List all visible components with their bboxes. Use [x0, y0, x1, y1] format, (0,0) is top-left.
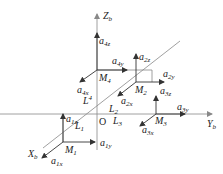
x-axis-label: Xb: [27, 148, 38, 161]
vector-a4z-label: a4z: [99, 35, 111, 48]
vector-a1z-label: a1z: [66, 113, 78, 126]
vector-a4x-label: a4x: [77, 84, 90, 97]
vector-a1x-label: a1x: [51, 155, 64, 168]
origin-label: O: [99, 116, 106, 127]
line-l3-label: L3: [112, 115, 123, 128]
y-axis-label: Yb: [207, 118, 217, 131]
vector-a3z-label: a3z: [160, 85, 172, 98]
point-m4-label: M4: [98, 72, 111, 85]
vector-a3x-label: a3x: [142, 124, 155, 137]
point-m3-label: M3: [154, 115, 167, 128]
vector-a3y-label: a3y: [177, 101, 190, 114]
vector-a2z-label: a2z: [139, 51, 151, 64]
vector-a2y-label: a2y: [163, 68, 176, 81]
vector-a2x: [118, 82, 136, 96]
point-m2-label: M2: [134, 84, 147, 97]
vector-a2x-label: a2x: [121, 95, 134, 108]
point-m1-label: M1: [64, 144, 77, 157]
vector-a4x: [80, 70, 97, 82]
vector-a4y-label: a4y: [112, 55, 125, 68]
vector-a1y-label: a1y: [100, 137, 113, 150]
coordinate-diagram: Zb Yb Xb O M4 M2 M3 M1 L4 L2 L3 L1 a4z a…: [0, 0, 223, 174]
z-axis-label: Zb: [103, 10, 113, 23]
